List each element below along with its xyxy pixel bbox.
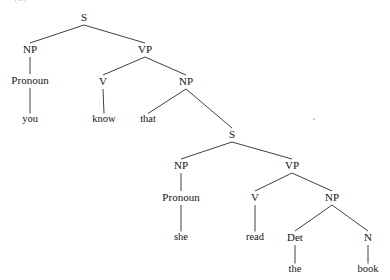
- category-node-NP1: NP: [23, 43, 37, 55]
- terminal-node-she: she: [174, 231, 188, 242]
- category-node-VP1: VP: [138, 43, 152, 55]
- terminal-node-book: book: [358, 263, 380, 274]
- category-node-S1: S: [81, 11, 87, 23]
- category-node-V1: V: [99, 75, 107, 87]
- tree-branch-S1-VP1: [84, 25, 145, 43]
- category-node-Pronoun1: Pronoun: [11, 74, 49, 86]
- tree-branch-NP4-N1: [332, 205, 368, 231]
- terminal-node-read: read: [246, 231, 265, 242]
- category-node-NP2: NP: [179, 75, 193, 87]
- tree-branch-NP2-S2: [186, 89, 232, 128]
- category-node-S2: S: [229, 128, 235, 140]
- syntax-tree-canvas: SNPVPPronounyouVNPknowthatSNPVPPronounsh…: [0, 0, 390, 280]
- tree-branch-NP4-Det1: [295, 205, 332, 231]
- tree-branch-V1-know: [103, 89, 104, 114]
- tree-branch-VP1-NP2: [145, 57, 186, 75]
- category-node-NP3: NP: [174, 159, 188, 171]
- tree-branch-S2-NP3: [181, 142, 232, 159]
- category-node-NP4: NP: [325, 191, 339, 203]
- terminal-node-that: that: [140, 113, 156, 124]
- syntax-tree-figure: (3) SNPVPPronounyouVNPknowthatSNPVPProno…: [0, 0, 390, 280]
- tree-branch-S2-VP2: [232, 142, 292, 159]
- terminal-node-the: the: [289, 263, 302, 274]
- category-node-VP2: VP: [285, 159, 299, 171]
- category-node-V2: V: [251, 191, 259, 203]
- tree-branch-VP2-V2: [255, 173, 292, 191]
- category-node-Det1: Det: [287, 231, 303, 243]
- tree-branch-NP2-that: [148, 89, 186, 114]
- tree-branch-S1-NP1: [30, 25, 84, 43]
- tree-branch-VP2-NP4: [292, 173, 332, 191]
- tree-edge-layer: [30, 25, 368, 264]
- tree-branch-VP1-V1: [103, 57, 145, 75]
- category-node-Pronoun2: Pronoun: [162, 191, 200, 203]
- tree-node-layer: SNPVPPronounyouVNPknowthatSNPVPPronounsh…: [11, 11, 379, 275]
- page-speck: [313, 118, 315, 120]
- terminal-node-know: know: [92, 113, 116, 124]
- category-node-N1: N: [364, 231, 372, 243]
- terminal-node-you: you: [22, 113, 39, 124]
